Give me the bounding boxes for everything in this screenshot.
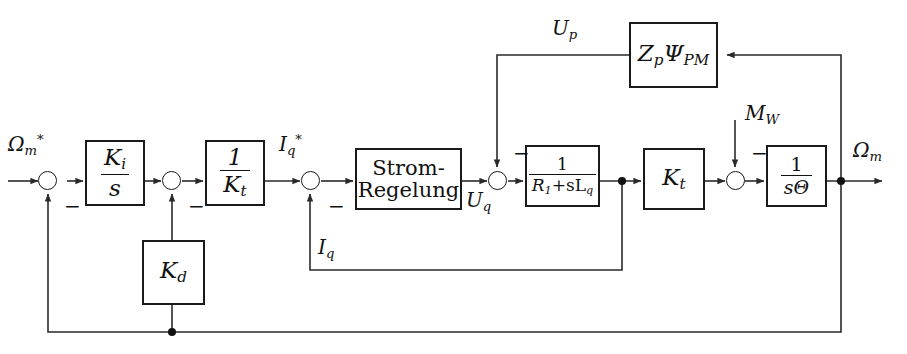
block-inverse-torque-constant-numerator: 1 bbox=[220, 146, 249, 171]
minus-sign-back-emf: − bbox=[513, 143, 530, 163]
signal-label-speed-reference: Ωm* bbox=[8, 133, 44, 157]
signal-label-voltage-q: Uq bbox=[466, 190, 491, 213]
sum-junction-load bbox=[726, 171, 745, 190]
minus-sign-current-feedback: − bbox=[328, 196, 345, 216]
block-torque-constant: Kt bbox=[643, 148, 705, 210]
branch-dot-speed-output bbox=[837, 177, 845, 185]
block-mechanical-integrator-denominator: sΘ bbox=[781, 176, 812, 197]
branch-dot-current bbox=[618, 177, 626, 185]
block-speed-integrator: Ki s bbox=[85, 140, 145, 206]
block-stator-impedance-denominator: R1+sLq bbox=[529, 175, 596, 196]
block-mechanical-integrator-numerator: 1 bbox=[781, 155, 812, 176]
block-current-controller: Strom- Regelung bbox=[355, 148, 462, 210]
block-diagram: Ki s 1 Kt Kd Strom- Regelung 1 R1+sLq Kt bbox=[0, 0, 907, 354]
sum-junction-emf bbox=[488, 171, 507, 190]
block-back-emf-constant-symbol2: Ψ bbox=[663, 40, 683, 66]
branch-dot-damping bbox=[168, 328, 176, 336]
minus-sign-speed-feedback: − bbox=[64, 196, 81, 216]
block-current-controller-line1: Strom- bbox=[372, 156, 445, 180]
block-damping-gain: Kd bbox=[142, 240, 205, 305]
block-inverse-torque-constant-denominator: Kt bbox=[220, 171, 249, 199]
block-inverse-torque-constant: 1 Kt bbox=[205, 140, 265, 206]
signal-label-speed-output: Ωm bbox=[853, 140, 882, 163]
minus-sign-load-torque: − bbox=[751, 143, 768, 163]
block-damping-gain-symbol: K bbox=[160, 257, 177, 283]
block-stator-impedance: 1 R1+sLq bbox=[525, 145, 600, 207]
minus-sign-damping: − bbox=[188, 196, 205, 216]
signal-label-current-q: Iq bbox=[318, 237, 334, 260]
block-back-emf-constant: ZpΨPM bbox=[629, 22, 718, 88]
signal-label-current-reference: Iq* bbox=[279, 133, 302, 157]
signal-label-load-torque: MW bbox=[745, 103, 779, 126]
block-speed-integrator-denominator: s bbox=[101, 175, 129, 200]
block-speed-integrator-numerator: Ki bbox=[101, 146, 129, 174]
signal-label-back-emf-voltage: Up bbox=[552, 18, 577, 41]
block-back-emf-constant-symbol1: Z bbox=[638, 40, 654, 66]
block-current-controller-line2: Regelung bbox=[358, 178, 459, 202]
sum-junction-speed bbox=[38, 171, 57, 190]
block-torque-constant-symbol: K bbox=[662, 164, 679, 190]
block-stator-impedance-numerator: 1 bbox=[529, 156, 596, 175]
block-mechanical-integrator: 1 sΘ bbox=[766, 145, 827, 207]
sum-junction-damping bbox=[162, 171, 181, 190]
sum-junction-current bbox=[301, 171, 320, 190]
